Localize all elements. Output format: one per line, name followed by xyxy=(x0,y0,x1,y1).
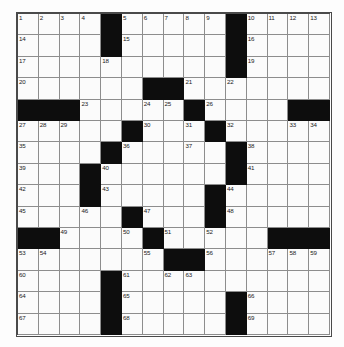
grid-cell[interactable] xyxy=(184,292,205,313)
grid-cell[interactable]: 43 xyxy=(101,185,122,206)
grid-cell[interactable] xyxy=(80,57,101,78)
grid-cell[interactable] xyxy=(80,142,101,163)
grid-cell[interactable] xyxy=(288,142,309,163)
grid-cell[interactable] xyxy=(288,207,309,228)
grid-cell[interactable] xyxy=(80,35,101,56)
grid-cell[interactable] xyxy=(60,78,81,99)
grid-cell[interactable] xyxy=(268,314,289,335)
grid-cell[interactable] xyxy=(39,185,60,206)
grid-cell[interactable] xyxy=(39,164,60,185)
grid-cell[interactable] xyxy=(164,121,185,142)
grid-cell[interactable]: 21 xyxy=(184,78,205,99)
grid-cell[interactable] xyxy=(60,207,81,228)
grid-cell[interactable]: 12 xyxy=(288,14,309,35)
grid-cell[interactable]: 27 xyxy=(18,121,39,142)
grid-cell[interactable] xyxy=(184,185,205,206)
grid-cell[interactable]: 11 xyxy=(268,14,289,35)
grid-cell[interactable] xyxy=(143,271,164,292)
grid-cell[interactable]: 67 xyxy=(18,314,39,335)
grid-cell[interactable] xyxy=(288,185,309,206)
grid-cell[interactable] xyxy=(39,142,60,163)
grid-cell[interactable]: 4 xyxy=(80,14,101,35)
grid-cell[interactable]: 29 xyxy=(60,121,81,142)
grid-cell[interactable]: 14 xyxy=(18,35,39,56)
grid-cell[interactable] xyxy=(80,121,101,142)
grid-cell[interactable]: 38 xyxy=(247,142,268,163)
grid-cell[interactable] xyxy=(122,164,143,185)
grid-cell[interactable] xyxy=(268,207,289,228)
grid-cell[interactable] xyxy=(288,271,309,292)
grid-cell[interactable]: 52 xyxy=(205,228,226,249)
grid-cell[interactable]: 19 xyxy=(247,57,268,78)
grid-cell[interactable]: 22 xyxy=(226,78,247,99)
grid-cell[interactable] xyxy=(164,185,185,206)
grid-cell[interactable] xyxy=(143,142,164,163)
grid-cell[interactable] xyxy=(80,292,101,313)
grid-cell[interactable]: 42 xyxy=(18,185,39,206)
grid-cell[interactable]: 56 xyxy=(205,249,226,270)
grid-cell[interactable] xyxy=(184,57,205,78)
grid-cell[interactable]: 9 xyxy=(205,14,226,35)
grid-cell[interactable]: 16 xyxy=(247,35,268,56)
grid-cell[interactable]: 17 xyxy=(18,57,39,78)
grid-cell[interactable] xyxy=(247,100,268,121)
grid-cell[interactable] xyxy=(164,142,185,163)
grid-cell[interactable] xyxy=(80,271,101,292)
grid-cell[interactable] xyxy=(60,292,81,313)
grid-cell[interactable] xyxy=(122,185,143,206)
grid-cell[interactable] xyxy=(39,78,60,99)
grid-cell[interactable] xyxy=(247,207,268,228)
grid-cell[interactable]: 50 xyxy=(122,228,143,249)
grid-cell[interactable]: 61 xyxy=(122,271,143,292)
grid-cell[interactable]: 5 xyxy=(122,14,143,35)
grid-cell[interactable] xyxy=(122,57,143,78)
grid-cell[interactable] xyxy=(184,164,205,185)
grid-cell[interactable] xyxy=(247,121,268,142)
grid-cell[interactable] xyxy=(101,207,122,228)
grid-cell[interactable] xyxy=(288,57,309,78)
grid-cell[interactable]: 25 xyxy=(164,100,185,121)
grid-cell[interactable] xyxy=(309,142,330,163)
grid-cell[interactable] xyxy=(122,78,143,99)
grid-cell[interactable] xyxy=(205,142,226,163)
grid-cell[interactable]: 10 xyxy=(247,14,268,35)
grid-cell[interactable] xyxy=(268,271,289,292)
grid-cell[interactable]: 23 xyxy=(80,100,101,121)
grid-cell[interactable] xyxy=(226,228,247,249)
grid-cell[interactable]: 24 xyxy=(143,100,164,121)
grid-cell[interactable] xyxy=(309,185,330,206)
grid-cell[interactable]: 13 xyxy=(309,14,330,35)
grid-cell[interactable] xyxy=(143,185,164,206)
grid-cell[interactable] xyxy=(143,292,164,313)
grid-cell[interactable] xyxy=(101,78,122,99)
grid-cell[interactable] xyxy=(205,78,226,99)
grid-cell[interactable] xyxy=(205,292,226,313)
grid-cell[interactable] xyxy=(184,207,205,228)
grid-cell[interactable] xyxy=(288,164,309,185)
grid-cell[interactable] xyxy=(268,164,289,185)
grid-cell[interactable] xyxy=(288,314,309,335)
grid-cell[interactable] xyxy=(143,35,164,56)
grid-cell[interactable] xyxy=(205,314,226,335)
grid-cell[interactable] xyxy=(309,57,330,78)
grid-cell[interactable] xyxy=(288,35,309,56)
grid-cell[interactable] xyxy=(288,78,309,99)
grid-cell[interactable]: 53 xyxy=(18,249,39,270)
grid-cell[interactable] xyxy=(80,314,101,335)
grid-cell[interactable] xyxy=(309,292,330,313)
grid-cell[interactable] xyxy=(122,249,143,270)
grid-cell[interactable] xyxy=(60,164,81,185)
grid-cell[interactable]: 49 xyxy=(60,228,81,249)
grid-cell[interactable] xyxy=(184,35,205,56)
grid-cell[interactable] xyxy=(143,164,164,185)
grid-cell[interactable]: 68 xyxy=(122,314,143,335)
grid-cell[interactable] xyxy=(101,121,122,142)
grid-cell[interactable] xyxy=(247,249,268,270)
grid-cell[interactable]: 30 xyxy=(143,121,164,142)
grid-cell[interactable] xyxy=(143,57,164,78)
grid-cell[interactable] xyxy=(309,164,330,185)
grid-cell[interactable]: 65 xyxy=(122,292,143,313)
grid-cell[interactable] xyxy=(164,35,185,56)
grid-cell[interactable] xyxy=(247,228,268,249)
grid-cell[interactable]: 35 xyxy=(18,142,39,163)
